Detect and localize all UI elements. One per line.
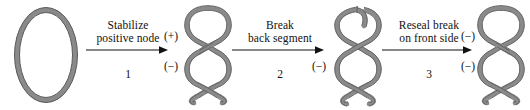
stage-relaxed-dna-circle <box>10 4 82 106</box>
stage-supercoiled-dna-broken-back-segment <box>333 4 383 106</box>
stage-supercoiled-dna-positive-node <box>183 4 233 106</box>
supercoil-intact-svg <box>183 4 233 106</box>
step-1-number: 1 <box>86 68 170 80</box>
supercoiling-figure: Stabilize positive node 1 (+) (−) <box>0 0 530 110</box>
stage-supercoiled-dna-resealed <box>476 4 526 106</box>
relaxed-circle-svg <box>10 4 82 106</box>
node-sign-negative-stage3: (−) <box>308 60 330 72</box>
step-1-label: Stabilize positive node <box>86 19 170 44</box>
supercoil-resealed-svg <box>476 4 526 106</box>
step-3-arrow <box>382 44 472 56</box>
dna-duplex-ellipse-fill <box>17 10 75 100</box>
dna-duplex-ellipse-inner <box>20 13 73 98</box>
arrow-icon <box>86 44 168 56</box>
step-1-arrow <box>86 44 168 56</box>
arrow-icon <box>232 44 324 56</box>
node-sign-positive-stage2: (+) <box>160 30 182 42</box>
arrow-icon <box>382 44 472 56</box>
supercoil-broken-svg <box>333 4 383 106</box>
step-2-arrow <box>232 44 324 56</box>
dna-duplex-ellipse-outer <box>15 8 78 103</box>
node-sign-negative-stage2: (−) <box>160 60 182 72</box>
step-2-label: Break back segment <box>237 19 323 44</box>
